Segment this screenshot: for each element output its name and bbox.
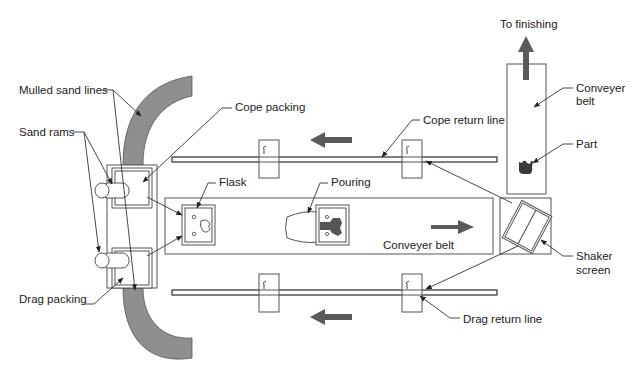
- label-shaker-screen-2: screen: [576, 264, 611, 276]
- mulled-sand-line-top: [123, 76, 192, 165]
- drag-return-line: [172, 274, 497, 312]
- label-conveyer-belt-main: Conveyer belt: [383, 239, 455, 251]
- part: [519, 161, 533, 174]
- label-shaker-screen-1: Shaker: [576, 250, 613, 262]
- label-conveyer-belt-finish-1: Conveyer: [576, 82, 625, 94]
- label-cope-return-line: Cope return line: [423, 114, 505, 126]
- label-drag-return-line: Drag return line: [463, 313, 542, 325]
- foundry-layout-diagram: Mulled sand lines Sand rams Cope packing…: [0, 0, 639, 372]
- label-part: Part: [576, 138, 598, 150]
- label-drag-packing: Drag packing: [19, 293, 87, 305]
- shaker-screen: [500, 198, 552, 254]
- label-cope-packing: Cope packing: [235, 101, 305, 113]
- label-mulled-sand-lines: Mulled sand lines: [19, 84, 108, 96]
- finishing-conveyer-belt: [507, 64, 546, 194]
- drag-return-arrow-icon: [310, 309, 352, 325]
- mulled-sand-line-bottom: [123, 288, 192, 359]
- label-sand-rams: Sand rams: [19, 126, 75, 138]
- label-to-finishing: To finishing: [500, 18, 558, 30]
- sand-ram-bottom: [95, 253, 129, 268]
- cope-return-arrow-icon: [310, 132, 352, 148]
- label-pouring: Pouring: [331, 176, 371, 188]
- molding-station: [95, 165, 157, 288]
- flask: [182, 205, 215, 245]
- label-conveyer-belt-finish-2: belt: [576, 95, 595, 107]
- label-flask: Flask: [219, 176, 247, 188]
